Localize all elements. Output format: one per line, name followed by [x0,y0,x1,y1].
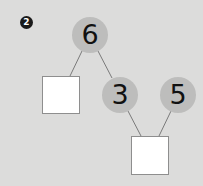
middle-node-3: 3 [102,77,138,113]
connector-6-to-left-box [70,51,82,76]
connector-6-to-3 [98,51,112,78]
left-answer-box[interactable] [42,76,80,114]
problem-number-badge: 2 [20,16,33,29]
top-node-6: 6 [72,17,108,53]
connector-3-to-bottom-box [128,111,141,136]
number-bond-diagram: 2 6 3 5 [0,0,203,186]
connector-5-to-bottom-box [159,111,171,136]
side-node-5: 5 [160,77,196,113]
bottom-answer-box[interactable] [131,136,169,175]
